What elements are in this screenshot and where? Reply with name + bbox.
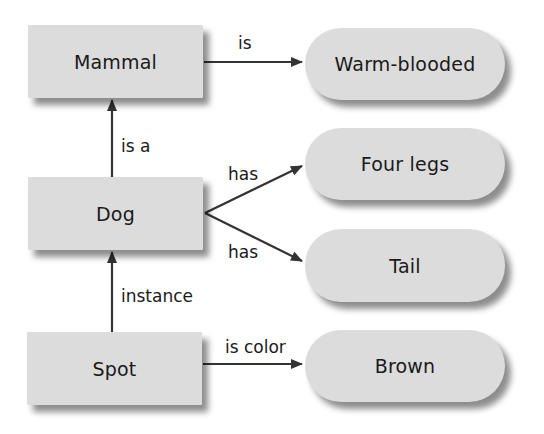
node-four-legs: Four legs bbox=[305, 128, 505, 200]
node-mammal: Mammal bbox=[28, 25, 203, 98]
edge-label-is-color: is color bbox=[225, 337, 286, 357]
node-spot: Spot bbox=[27, 332, 202, 405]
node-warm-blooded: Warm-blooded bbox=[305, 28, 505, 100]
edge-label-has-legs: has bbox=[228, 164, 258, 184]
edge-label-has-tail: has bbox=[228, 242, 258, 262]
edge-label-instance: instance bbox=[121, 286, 193, 306]
node-mammal-label: Mammal bbox=[74, 51, 157, 73]
node-tail-label: Tail bbox=[389, 255, 420, 277]
node-warm-blooded-label: Warm-blooded bbox=[335, 53, 476, 75]
node-four-legs-label: Four legs bbox=[361, 153, 450, 175]
node-spot-label: Spot bbox=[93, 358, 137, 380]
edge-label-is: is bbox=[238, 33, 252, 53]
node-brown: Brown bbox=[305, 330, 505, 402]
node-dog-label: Dog bbox=[96, 203, 135, 225]
node-brown-label: Brown bbox=[375, 355, 436, 377]
node-dog: Dog bbox=[28, 177, 203, 250]
edge-label-is-a: is a bbox=[121, 136, 150, 156]
node-tail: Tail bbox=[305, 229, 505, 302]
